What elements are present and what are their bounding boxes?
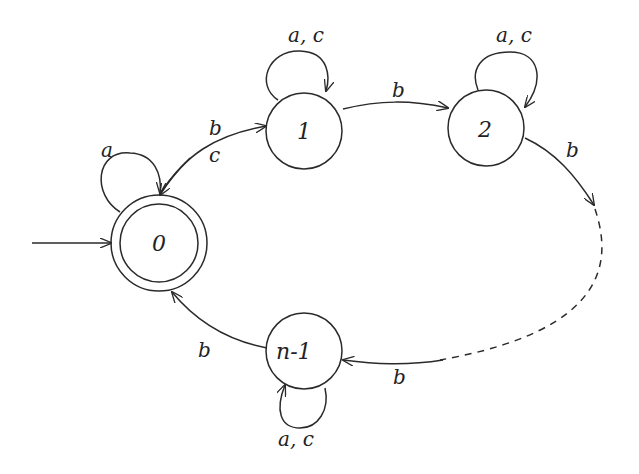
edge-n-1-0-label: b: [198, 338, 211, 362]
loop-1: [266, 51, 328, 100]
edge-continue-n-1-label: b: [393, 365, 406, 389]
state-0-label: 0: [152, 231, 166, 256]
edge-1-0-label: c: [209, 143, 220, 167]
edge-0-1-label: b: [209, 116, 222, 140]
loop-2-label: a, c: [496, 23, 532, 47]
loop-0-label: a: [101, 138, 113, 162]
loop-n-1: [280, 385, 326, 428]
edge-2-continue: [525, 138, 594, 205]
edge-1-2-label: b: [392, 78, 405, 102]
state-n-1-label: n-1: [276, 339, 312, 364]
edge-2-continue-label: b: [566, 138, 579, 162]
edge-n-1-0: [172, 292, 267, 348]
state-2-label: 2: [477, 117, 492, 142]
edge-1-0-head: [160, 158, 190, 195]
loop-n-1-label: a, c: [278, 427, 314, 451]
loop-1-label: a, c: [288, 23, 324, 47]
dashed-continuation: [440, 209, 602, 360]
edge-continue-n-1: [343, 360, 443, 364]
automaton-diagram: 0 1 2 n-1 a b c a, c b a, c b b a, c b: [0, 0, 639, 474]
loop-2: [475, 52, 537, 107]
state-1-label: 1: [297, 119, 311, 144]
edge-1-2: [343, 102, 448, 109]
